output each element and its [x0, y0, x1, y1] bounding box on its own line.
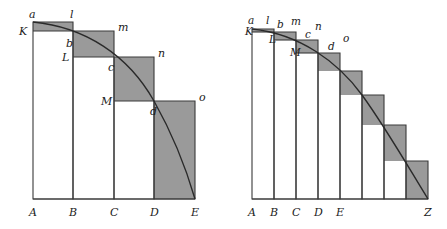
label-L-left: L [61, 51, 69, 64]
label-K-right: K [244, 25, 254, 37]
label-l-left: l [70, 8, 74, 21]
label-d-right: d [328, 40, 335, 52]
rect-r1 [252, 29, 274, 199]
label-d-left: d [150, 105, 157, 118]
label-m-right: m [291, 15, 301, 27]
label-L-right: L [268, 33, 276, 45]
shaded-band-r7 [384, 125, 406, 161]
label-B-left: B [68, 206, 77, 219]
shaded-band-2 [73, 31, 114, 57]
label-B-right: B [269, 206, 278, 219]
figure-canvas: a b c d l m n o K L M A B C D E [0, 0, 447, 229]
label-E-right: E [335, 206, 344, 219]
shaded-band-4 [154, 101, 195, 199]
label-D-right: D [313, 206, 323, 219]
right-panel-rectangles [252, 29, 428, 199]
label-n-left: n [158, 47, 165, 60]
label-M-right: M [289, 46, 301, 58]
label-M-left: M [100, 95, 113, 108]
label-a-left: a [29, 8, 36, 21]
left-panel: a b c d l m n o K L M A B C D E [18, 8, 206, 219]
label-C-left: C [110, 206, 119, 219]
label-b-left: b [66, 37, 73, 50]
label-A-right: A [247, 206, 256, 219]
label-n-right: n [315, 20, 322, 32]
right-panel: a b c d l m n o K L M A B C D E Z [244, 14, 432, 219]
label-D-left: D [149, 206, 159, 219]
label-o-left: o [199, 91, 206, 104]
shaded-band-3 [114, 57, 154, 101]
label-Z-right: Z [423, 206, 432, 219]
label-E-left: E [190, 206, 199, 219]
label-K-left: K [18, 25, 28, 38]
label-m-left: m [118, 21, 128, 34]
label-o-right: o [343, 32, 349, 44]
rect-r4 [318, 53, 340, 199]
label-c-right: c [305, 28, 311, 40]
label-c-left: c [108, 61, 114, 74]
rect-r3 [296, 40, 318, 199]
label-A-left: A [28, 206, 37, 219]
quadrature-figure: a b c d l m n o K L M A B C D E [0, 0, 447, 229]
label-l-right: l [266, 14, 269, 26]
label-b-right: b [277, 18, 284, 30]
label-C-right: C [292, 206, 301, 219]
